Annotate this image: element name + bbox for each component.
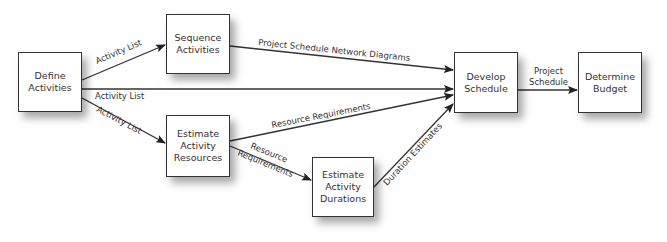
node-sequence-activities: Sequence Activities [166,14,230,74]
node-label: Estimate Activity Resources [174,128,223,164]
node-define-activities: Define Activities [18,52,82,112]
node-label: Sequence Activities [175,32,222,56]
edge-label-project-line2: Schedule [529,77,568,87]
edge-resources-to-develop [230,95,453,141]
edge-label-activity-list-2: Activity List [95,91,145,101]
edge-label-activity-list-1: Activity List [94,37,144,66]
edge-label-project-line1: Project [534,66,564,76]
node-estimate-activity-durations: Estimate Activity Durations [312,157,374,217]
node-estimate-activity-resources: Estimate Activity Resources [166,115,230,177]
edge-label-activity-list-3: Activity List [95,104,144,136]
edge-label-network-diagrams: Project Schedule Network Diagrams [258,37,411,63]
node-label: Define Activities [28,70,71,94]
edge-label-duration-estimates: Duration Estimates [381,120,444,187]
node-label: Develop Schedule [464,71,508,95]
node-label: Determine Budget [585,71,635,95]
node-develop-schedule: Develop Schedule [454,52,518,113]
node-determine-budget: Determine Budget [578,52,642,113]
node-label: Estimate Activity Durations [320,169,366,205]
